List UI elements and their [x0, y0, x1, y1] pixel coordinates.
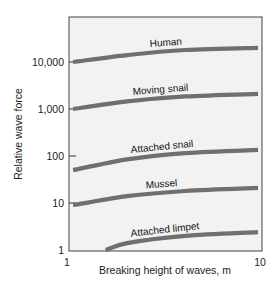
y-tick-label: 100 [46, 150, 64, 162]
x-tick-label: 10 [254, 256, 266, 268]
y-tick-label: 1,000 [38, 103, 64, 115]
x-axis-title: Breaking height of waves, m [99, 264, 231, 276]
y-tick-label: 10,000 [32, 56, 64, 68]
x-tick-label: 1 [64, 256, 70, 268]
y-axis-title: Relative wave force [12, 88, 24, 180]
chart: 1101001,00010,000 110 HumanMoving snailA… [0, 0, 278, 290]
y-tick-label: 10 [52, 197, 64, 209]
y-tick-label: 1 [58, 244, 64, 256]
